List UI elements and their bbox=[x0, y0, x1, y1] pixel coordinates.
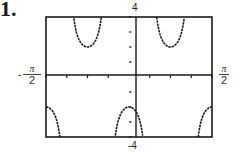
graph-plot bbox=[0, 0, 245, 157]
viewing-window-frame bbox=[46, 17, 212, 137]
axis-ticks bbox=[46, 17, 212, 137]
secant-curve bbox=[46, 17, 212, 137]
